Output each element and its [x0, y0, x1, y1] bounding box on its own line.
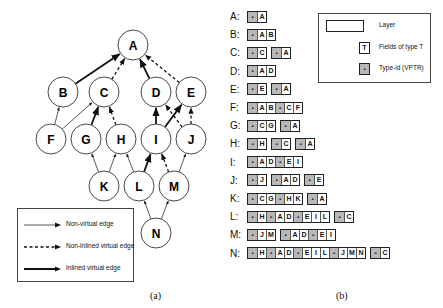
layout-row-J: J:▪J▪AD▪E	[230, 174, 328, 187]
field-cell: I	[293, 157, 302, 167]
layout-row-label: C:	[230, 46, 247, 59]
vptr-cell: ▪	[248, 212, 257, 222]
vptr-cell: ▪	[272, 139, 281, 149]
layer: ▪A	[247, 11, 267, 23]
vptr-cell: ▪	[248, 230, 257, 240]
vptr-cell: ▪	[281, 121, 290, 131]
field-cell: E	[257, 84, 266, 94]
field-cell: A	[257, 12, 266, 22]
field-cell: E	[284, 157, 293, 167]
field-cell: J	[257, 175, 266, 185]
layer: ▪A	[280, 120, 300, 132]
field-cell: C	[257, 48, 266, 58]
vptr-sample-icon: ▪	[359, 63, 370, 75]
field-cell: L	[320, 248, 329, 258]
layout-row-G: G:▪CG▪A	[230, 119, 304, 132]
layer-sample-icon	[326, 20, 364, 32]
field-cell: A	[281, 48, 290, 58]
field-cell: A	[317, 194, 326, 204]
vptr-cell: ▪	[308, 230, 317, 240]
node-C: C	[89, 77, 119, 107]
layout-row-K: K:▪CG▪HK▪A	[230, 192, 331, 205]
node-I: I	[141, 124, 171, 154]
field-cell: J	[338, 248, 347, 258]
field-cell: B	[266, 30, 275, 40]
field-cell: A	[281, 175, 290, 185]
layer: ▪AD	[247, 65, 276, 77]
svg-text:H: H	[117, 133, 126, 147]
layout-row-M: M:▪JM▪AD▪EI	[230, 228, 340, 241]
field-cell: D	[299, 230, 308, 240]
field-cell: E	[317, 230, 326, 240]
vptr-cell: ▪	[248, 66, 257, 76]
layout-row-E: E:▪E▪A	[230, 83, 295, 96]
field-cell: F	[293, 103, 302, 113]
node-D: D	[141, 77, 171, 107]
layout-row-label: A:	[230, 10, 247, 23]
field-cell: H	[257, 212, 266, 222]
vptr-cell: ▪	[335, 212, 344, 222]
svg-text:A: A	[129, 39, 138, 53]
layout-row-label: F:	[230, 101, 247, 114]
layer: ▪JM	[247, 229, 276, 241]
edge-H-C	[109, 107, 115, 125]
field-cell: A	[257, 30, 266, 40]
field-cell: A	[257, 66, 266, 76]
field-cell: I	[311, 212, 320, 222]
legend-non-virtual-label: Non-virtual edge	[66, 219, 114, 229]
vptr-cell: ▪	[275, 194, 284, 204]
field-cell: I	[326, 230, 335, 240]
field-cell: K	[293, 194, 302, 204]
svg-text:E: E	[187, 86, 195, 100]
field-cell: E	[302, 248, 311, 258]
svg-text:K: K	[100, 180, 109, 194]
edge-legend: Non-virtual edge Non-inlined virtual edg…	[17, 208, 134, 282]
vptr-cell: ▪	[281, 230, 290, 240]
layout-row-A: A:▪A	[230, 10, 271, 23]
layer: ▪A	[307, 193, 327, 205]
caption-a: (a)	[150, 290, 161, 301]
vptr-cell: ▪	[248, 121, 257, 131]
legend-inlined: Inlined virtual edge	[18, 263, 133, 275]
vptr-cell: ▪	[248, 12, 257, 22]
node-H: H	[106, 124, 136, 154]
layout-row-N: N:▪H▪AD▪EIL▪JMN▪C	[230, 247, 394, 260]
field-cell: D	[266, 157, 275, 167]
field-cell: M	[347, 248, 356, 258]
layer: ▪A	[295, 138, 315, 150]
svg-text:M: M	[169, 180, 179, 194]
svg-text:G: G	[81, 133, 90, 147]
layer-legend-label: Layer	[379, 21, 395, 28]
node-L: L	[124, 171, 154, 201]
node-F: F	[36, 124, 66, 154]
edge-M-J	[179, 154, 185, 172]
layer: ▪C	[334, 211, 354, 223]
layout-row-label: K:	[230, 192, 247, 205]
field-cell: M	[266, 230, 275, 240]
layer: ▪E	[304, 174, 324, 186]
layout-row-L: L:▪H▪AD▪EIL▪C	[230, 210, 358, 223]
field-cell: A	[290, 230, 299, 240]
layout-row-I: I:▪AD▪EI	[230, 156, 307, 169]
edge-F-B	[55, 108, 59, 125]
layer: ▪H	[247, 138, 267, 150]
layer: ▪C	[271, 138, 291, 150]
edge-L-H	[127, 154, 134, 172]
svg-text:C: C	[100, 86, 109, 100]
vptr-cell: ▪	[266, 248, 275, 258]
field-sample-icon: T	[359, 42, 370, 54]
svg-text:B: B	[59, 86, 68, 100]
field-cell: E	[302, 212, 311, 222]
layer: ▪AD▪EI	[247, 156, 303, 168]
layer: ▪AD▪EI	[280, 229, 336, 241]
layout-row-F: F:▪AB▪CF	[230, 101, 307, 114]
layout-row-label: I:	[230, 156, 247, 169]
edge-K-G	[92, 154, 99, 172]
node-B: B	[48, 77, 78, 107]
layout-row-label: L:	[230, 210, 247, 223]
layout-row-C: C:▪C▪A	[230, 46, 295, 59]
layer: ▪C	[247, 47, 267, 59]
legend-inlined-label: Inlined virtual edge	[66, 263, 121, 273]
layout-row-label: B:	[230, 28, 247, 41]
field-cell: D	[290, 175, 299, 185]
